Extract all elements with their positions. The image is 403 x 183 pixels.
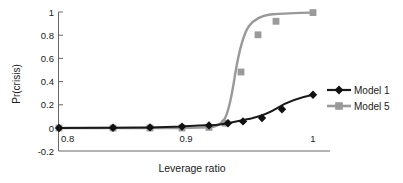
legend-item-model-1[interactable]: Model 1 — [327, 85, 390, 96]
legend: Model 1 Model 5 — [327, 85, 390, 112]
y-tick-label-4: 0.6 — [41, 53, 54, 64]
x-axis-tick-labels: 0.8 0.9 1 — [61, 133, 316, 144]
y-tick-label-2: 0.2 — [41, 99, 54, 110]
y-axis-ticks — [59, 12, 64, 128]
marker-square — [255, 31, 262, 38]
marker-diamond — [239, 117, 247, 125]
x-tick-label-2: 1 — [310, 133, 315, 144]
y-axis-title: Pr(crisis) — [11, 64, 22, 103]
y-tick-label-3: 0.4 — [41, 76, 54, 87]
y-axis-tick-labels: 1 0.8 0.6 0.4 0.2 0 -0.2 — [38, 7, 54, 157]
legend-marker-diamond — [335, 86, 344, 95]
y-tick-label-1: 0 — [49, 123, 54, 134]
series-model-5-line — [59, 13, 313, 128]
legend-label-model-5: Model 5 — [354, 101, 390, 112]
marker-diamond — [309, 91, 317, 99]
chart-figure: 1 0.8 0.6 0.4 0.2 0 -0.2 0.8 0.9 1 — [0, 0, 403, 183]
marker-square — [273, 18, 280, 25]
y-tick-label-5: 0.8 — [41, 30, 54, 41]
legend-item-model-5[interactable]: Model 5 — [327, 101, 390, 112]
series-model-5-markers — [56, 9, 317, 131]
series-model-5 — [56, 9, 317, 131]
x-axis-title: Leverage ratio — [158, 162, 225, 174]
legend-marker-square — [335, 102, 343, 110]
series-model-1 — [55, 91, 317, 133]
series-model-1-line — [59, 95, 313, 128]
marker-square — [310, 9, 317, 16]
marker-square — [238, 69, 245, 76]
x-tick-label-1: 0.9 — [179, 133, 192, 144]
y-tick-label-0: -0.2 — [38, 146, 54, 157]
y-tick-label-6: 1 — [49, 7, 54, 18]
legend-label-model-1: Model 1 — [354, 85, 390, 96]
x-tick-label-0: 0.8 — [61, 133, 74, 144]
